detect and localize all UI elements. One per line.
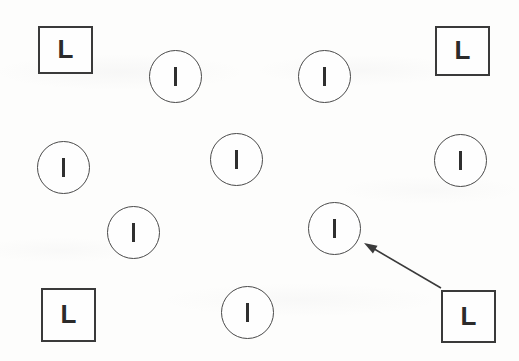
square-bottom-left[interactable]: L	[41, 288, 96, 342]
letter-i-glyph	[333, 219, 336, 238]
letter-l-glyph: L	[455, 37, 471, 63]
circle-target[interactable]	[308, 202, 361, 255]
letter-l-glyph: L	[58, 36, 74, 62]
circle-mid-center[interactable]	[210, 133, 263, 186]
letter-i-glyph	[323, 67, 326, 86]
circle-bottom[interactable]	[221, 286, 274, 339]
square-bottom-right[interactable]: L	[441, 290, 496, 343]
arrow-shaft	[373, 249, 441, 288]
letter-i-glyph	[235, 150, 238, 169]
arrow-group	[364, 243, 441, 288]
arrow-head-icon	[364, 243, 377, 253]
circle-mid-right[interactable]	[434, 134, 487, 187]
square-top-left[interactable]: L	[38, 26, 93, 74]
visual-search-display: LLLL	[0, 0, 519, 361]
letter-l-glyph: L	[461, 303, 477, 329]
letter-i-glyph	[174, 67, 177, 86]
letter-i-glyph	[132, 223, 135, 242]
circle-top-left[interactable]	[149, 50, 202, 103]
letter-i-glyph	[62, 158, 65, 177]
letter-i-glyph	[246, 303, 249, 322]
letter-i-glyph	[459, 151, 462, 170]
circle-lower-left[interactable]	[107, 206, 160, 259]
letter-l-glyph: L	[61, 301, 77, 327]
circle-mid-left[interactable]	[37, 141, 90, 194]
square-top-right[interactable]: L	[435, 26, 490, 76]
circle-top-right[interactable]	[298, 50, 351, 103]
